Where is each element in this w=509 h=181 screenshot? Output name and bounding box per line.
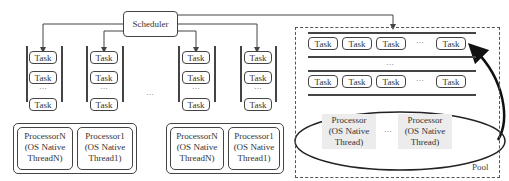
- queue-line: [308, 70, 476, 72]
- task-box: Task: [342, 75, 372, 88]
- processor-n: ProcessorN (OS Native ThreadN): [170, 127, 224, 170]
- ellipsis: ···: [410, 38, 430, 47]
- columns-ellipsis: ···: [140, 90, 160, 99]
- task-box: Task: [29, 71, 57, 84]
- processor-1: Processor1 (OS Native Thread1): [228, 127, 280, 170]
- task-box: Task: [244, 98, 272, 111]
- task-box: Task: [308, 75, 338, 88]
- processor-1: Processor1 (OS Native Thread1): [77, 127, 133, 170]
- ellipsis: ···: [410, 76, 430, 85]
- task-box: Task: [436, 37, 466, 50]
- task-box: Task: [182, 98, 210, 111]
- queue-rail-right: [122, 46, 124, 102]
- queue-rail-right: [275, 46, 277, 102]
- task-box: Task: [342, 37, 372, 50]
- task-box: Task: [29, 98, 57, 111]
- ellipsis: ···: [90, 84, 118, 93]
- queue-rail-right: [61, 46, 63, 102]
- processor-n: ProcessorN (OS Native ThreadN): [17, 127, 73, 170]
- queue-line: [308, 32, 476, 34]
- task-box: Task: [244, 51, 272, 64]
- task-box: Task: [29, 51, 57, 64]
- queue-rail-left: [178, 46, 180, 102]
- task-box: Task: [308, 37, 338, 50]
- task-box: Task: [436, 75, 466, 88]
- queue-rail-right: [214, 46, 216, 102]
- task-box: Task: [376, 37, 406, 50]
- ellipsis: ···: [182, 84, 210, 93]
- queue-rail-left: [26, 46, 28, 102]
- queue-line: [308, 56, 476, 58]
- task-box: Task: [90, 71, 118, 84]
- task-box: Task: [90, 98, 118, 111]
- queue-line: [308, 94, 476, 96]
- processor-ellipsis: ···: [378, 127, 398, 136]
- pool-processor: Processor (OS Native Thread): [398, 114, 452, 149]
- scheduler-box: Scheduler: [123, 11, 178, 37]
- queue-rail-left: [86, 46, 88, 102]
- task-box: Task: [182, 71, 210, 84]
- task-box: Task: [244, 71, 272, 84]
- pool-processor: Processor (OS Native Thread): [322, 114, 376, 149]
- ellipsis: ···: [29, 84, 57, 93]
- rows-ellipsis: ···: [380, 60, 400, 69]
- scheduler-label: Scheduler: [133, 19, 169, 29]
- ellipsis: ···: [244, 84, 272, 93]
- task-box: Task: [182, 51, 210, 64]
- pool-label: Pool: [472, 162, 489, 172]
- task-box: Task: [90, 51, 118, 64]
- queue-rail-left: [240, 46, 242, 102]
- task-box: Task: [376, 75, 406, 88]
